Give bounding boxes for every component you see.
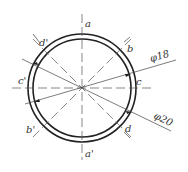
label-d: d bbox=[125, 123, 131, 134]
dim-line-inner bbox=[25, 60, 176, 104]
ring-section-diagram: a a' b b' c c' d d' φ18 φ20 bbox=[0, 0, 188, 172]
label-d-prime: d' bbox=[39, 37, 48, 48]
label-c: c bbox=[136, 76, 142, 87]
label-c-prime: c' bbox=[18, 75, 26, 86]
label-b: b bbox=[127, 43, 133, 54]
label-a: a bbox=[85, 18, 91, 29]
dim-label-outer: φ20 bbox=[152, 110, 175, 129]
dim-label-inner: φ18 bbox=[149, 48, 171, 64]
label-a-prime: a' bbox=[85, 148, 94, 159]
label-b-prime: b' bbox=[26, 124, 35, 135]
